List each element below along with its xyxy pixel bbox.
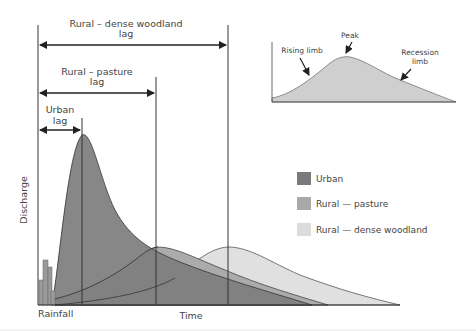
legend-swatch-woodland xyxy=(297,223,311,236)
inset-rising-label: Rising limb xyxy=(281,46,323,55)
inset-hydrograph: Peak Rising limb Recession limb xyxy=(272,31,456,102)
legend-label-woodland: Rural — dense woodland xyxy=(316,225,428,235)
legend: Urban Rural — pasture Rural — dense wood… xyxy=(297,172,428,236)
hydrograph-diagram: Rural – dense woodland lag Rural – pastu… xyxy=(0,0,476,331)
legend-label-pasture: Rural — pasture xyxy=(316,199,389,209)
legend-label-urban: Urban xyxy=(316,174,343,184)
x-axis-label: Time xyxy=(178,310,202,321)
y-axis-label: Discharge xyxy=(18,176,29,224)
inset-recession-label: Recession xyxy=(401,48,439,57)
inset-peak-label: Peak xyxy=(341,31,359,40)
urban-lag-label: Urban xyxy=(46,104,75,115)
rainfall-bars xyxy=(39,260,55,305)
inset-recession-label-2: limb xyxy=(412,57,428,66)
pasture-lag-label-2: lag xyxy=(90,76,105,87)
woodland-lag-label-2: lag xyxy=(119,28,134,39)
legend-swatch-pasture xyxy=(297,197,311,210)
legend-swatch-urban xyxy=(297,172,311,185)
urban-lag-label-2: lag xyxy=(53,115,68,126)
rainfall-label: Rainfall xyxy=(38,308,73,319)
